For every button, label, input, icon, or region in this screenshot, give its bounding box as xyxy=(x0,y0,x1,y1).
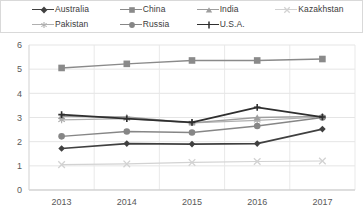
x-tick-label: 2016 xyxy=(247,197,267,207)
russia-marker-icon xyxy=(120,19,142,30)
line-chart: Australia China India xyxy=(0,0,363,213)
y-tick-label: 0 xyxy=(17,185,22,195)
legend-label-pakistan: Pakistan xyxy=(54,17,88,32)
data-point-marker xyxy=(254,123,261,130)
y-tick-label: 4 xyxy=(17,89,22,99)
data-point-marker xyxy=(254,57,261,64)
y-tick-label: 3 xyxy=(17,113,22,123)
plot-area: 0123456 20132014201520162017 xyxy=(0,33,363,213)
y-tick-label: 6 xyxy=(17,40,22,50)
kazakhstan-marker-icon xyxy=(275,4,297,15)
legend-row-1: Australia China India xyxy=(1,2,363,17)
series-kazakhstan xyxy=(58,158,325,168)
legend-item-pakistan[interactable]: Pakistan xyxy=(1,17,120,32)
legend-spacer xyxy=(275,17,363,32)
data-point-marker xyxy=(189,57,196,64)
chart-legend: Australia China India xyxy=(0,0,363,33)
legend-item-russia[interactable]: Russia xyxy=(120,17,197,32)
legend-item-china[interactable]: China xyxy=(120,2,197,17)
legend-row-2: Pakistan Russia U.S.A. xyxy=(1,17,363,32)
pakistan-marker-icon xyxy=(32,19,54,30)
legend-item-india[interactable]: India xyxy=(197,2,276,17)
data-point-marker xyxy=(189,129,196,136)
legend-label-australia: Australia xyxy=(54,2,89,17)
series-russia xyxy=(58,114,325,139)
legend-item-kazakhstan[interactable]: Kazakhstan xyxy=(275,2,363,17)
australia-marker-icon xyxy=(32,4,54,15)
y-tick-label: 2 xyxy=(17,137,22,147)
y-tick-labels: 0123456 xyxy=(17,40,22,195)
data-point-marker xyxy=(319,56,326,63)
x-tick-label: 2015 xyxy=(182,197,202,207)
legend-item-usa[interactable]: U.S.A. xyxy=(197,17,276,32)
x-tick-label: 2017 xyxy=(312,197,332,207)
india-marker-icon xyxy=(197,4,219,15)
legend-label-china: China xyxy=(142,2,166,17)
data-point-marker xyxy=(58,65,65,72)
plot-svg: 0123456 20132014201520162017 xyxy=(0,33,363,213)
legend-label-kazakhstan: Kazakhstan xyxy=(297,2,343,17)
china-marker-icon xyxy=(120,4,142,15)
series-layer xyxy=(58,56,325,168)
legend-label-usa: U.S.A. xyxy=(219,17,245,32)
data-point-marker xyxy=(124,61,131,68)
y-tick-label: 1 xyxy=(17,161,22,171)
data-point-marker xyxy=(254,104,261,111)
legend-label-india: India xyxy=(219,2,239,17)
legend-label-russia: Russia xyxy=(142,17,170,32)
legend-item-australia[interactable]: Australia xyxy=(1,2,120,17)
data-point-marker xyxy=(124,128,131,135)
data-point-marker xyxy=(58,145,65,152)
data-point-marker xyxy=(58,133,65,140)
data-point-marker xyxy=(319,126,326,133)
x-tick-label: 2014 xyxy=(117,197,137,207)
usa-marker-icon xyxy=(197,19,219,30)
x-tick-label: 2013 xyxy=(52,197,72,207)
y-tick-label: 5 xyxy=(17,64,22,74)
x-tick-labels: 20132014201520162017 xyxy=(52,197,333,207)
